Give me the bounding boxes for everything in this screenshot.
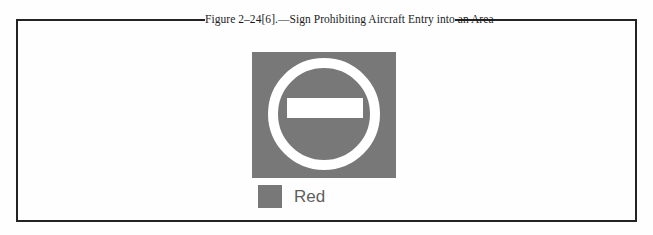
figure-border-top-left-segment <box>16 19 205 21</box>
legend-swatch-red <box>258 185 282 208</box>
color-legend: Red <box>258 185 325 208</box>
figure-container: Figure 2–24[6].—Sign Prohibiting Aircraf… <box>0 0 653 235</box>
legend-label-red: Red <box>294 185 325 208</box>
no-entry-sign <box>252 52 396 178</box>
sign-horizontal-bar-icon <box>287 98 363 118</box>
figure-caption: Figure 2–24[6].—Sign Prohibiting Aircraf… <box>205 11 455 28</box>
